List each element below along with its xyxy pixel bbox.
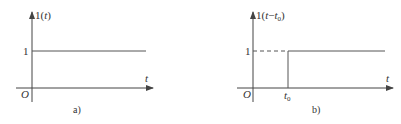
x-axis-label-a: t [145, 72, 149, 84]
plot-b: 1(t−t0) 1 t O t0 b) [237, 9, 393, 116]
unit-step-diagram: 1(t) 1 t O a) 1(t−t0) 1 t O t0 b) [0, 0, 401, 124]
origin-label-b: O [243, 88, 251, 100]
caption-b: b) [312, 104, 320, 116]
step-time-label-b: t0 [284, 89, 291, 103]
y-axis-label-a: 1(t) [35, 9, 51, 22]
origin-label-a: O [21, 88, 29, 100]
caption-a: a) [73, 104, 81, 116]
level-label-b: 1 [245, 45, 251, 57]
y-axis-label-b: 1(t−t0) [256, 9, 285, 23]
level-label-a: 1 [23, 45, 29, 57]
plot-a: 1(t) 1 t O a) [16, 9, 153, 116]
x-axis-label-b: t [386, 72, 390, 84]
